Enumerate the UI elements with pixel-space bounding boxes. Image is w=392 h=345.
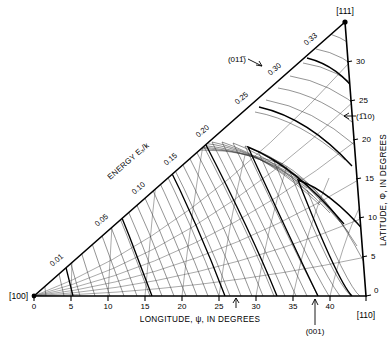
y-tick-label: 30 (356, 57, 365, 66)
vertex-label-110: [110] (357, 310, 375, 320)
contour-series-label: ENERGY Eₓ/k (106, 141, 151, 182)
x-tick-label: 25 (215, 302, 224, 311)
contour-label: 0.10 (130, 180, 147, 196)
y-tick-labels: 0 5 10 15 20 25 30 (356, 57, 379, 295)
energy-contour-figure: 0 5 10 15 20 25 30 35 40 0 5 10 15 20 25… (0, 0, 392, 345)
x-tick-label: 20 (178, 302, 187, 311)
contour-label: 0.25 (233, 90, 250, 106)
x-tick-label: 0 (32, 302, 37, 311)
annotation-label: (1̅10) (356, 112, 375, 121)
x-tick-label: 10 (104, 302, 113, 311)
axis-marker-arrow (233, 298, 239, 308)
vertex-dot-111 (342, 19, 347, 24)
x-tick-label: 40 (326, 302, 335, 311)
y-tick-label: 20 (362, 135, 371, 144)
contour-label: 0.01 (48, 252, 65, 268)
figure-canvas: 0 5 10 15 20 25 30 35 40 0 5 10 15 20 25… (0, 0, 392, 345)
minor-energy-contours (36, 34, 366, 296)
x-tick-label: 35 (289, 302, 298, 311)
vertex-label-100: [100] (9, 291, 28, 301)
contour-label: 0.15 (162, 151, 179, 167)
vertex-label-111: [111] (336, 6, 354, 16)
x-tick-label: 15 (141, 302, 150, 311)
annotation-label: (011̅) (228, 55, 246, 64)
annotation-011bar: (011̅) (228, 55, 262, 66)
annotation-001: (001) (306, 299, 325, 336)
y-tick-label: 15 (365, 174, 374, 183)
contour-label: 0.05 (93, 212, 110, 228)
contour-label: 0.30 (266, 61, 283, 77)
major-energy-contours (50, 58, 366, 296)
x-tick-label: 30 (252, 302, 261, 311)
y-tick-label: 0 (374, 286, 379, 295)
x-tick-labels: 0 5 10 15 20 25 30 35 40 (32, 302, 335, 311)
contour-label: 0.20 (194, 123, 211, 139)
x-axis-title: LONGITUDE, ψ, IN DEGREES (140, 315, 261, 324)
annotation-label: (001) (306, 327, 325, 336)
y-axis-title: LATITUDE, Φ, IN DEGREES (379, 134, 388, 246)
y-tick-label: 5 (371, 252, 376, 261)
x-tick-label: 5 (69, 302, 74, 311)
y-tick-label: 25 (359, 96, 368, 105)
contour-label: 0.33 (302, 31, 319, 47)
y-tick-label: 10 (368, 213, 377, 222)
